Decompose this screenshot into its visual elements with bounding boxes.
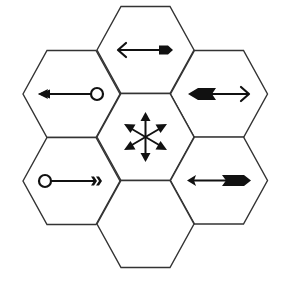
hexagon-grid-canvas (0, 0, 284, 300)
hexagon-diagram (0, 0, 284, 300)
